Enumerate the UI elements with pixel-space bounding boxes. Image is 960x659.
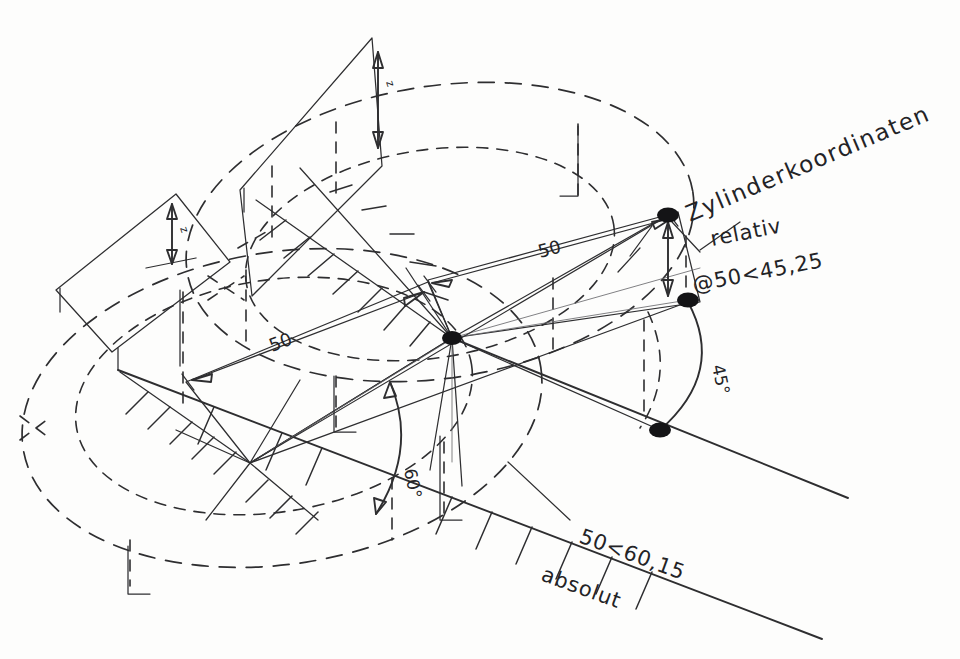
lower-dimension-line — [192, 292, 424, 380]
angle-60-label: 60° — [400, 467, 426, 501]
lower-dimension-value: 50 — [266, 328, 295, 356]
lower-hatch-7 — [270, 496, 292, 518]
lower-hatch-3 — [170, 422, 192, 444]
cross-mark-upper-left — [208, 276, 244, 300]
upper-plane-outer-ellipse — [164, 48, 715, 416]
upper-hatch-1 — [410, 322, 430, 346]
radial-axis-line — [452, 338, 848, 498]
absolute-axis-group — [118, 370, 822, 639]
title-label: Zylinderkoordinaten — [682, 100, 934, 226]
upper-dimension-value: 50 — [536, 236, 564, 262]
angle-45-label: 45° — [708, 363, 734, 397]
upper-dim-arrow-left — [432, 280, 452, 287]
angle-60-arrow-top — [384, 382, 396, 398]
ray-origin-to-mid-dot — [452, 300, 688, 338]
absolute-label: absolut — [538, 562, 624, 613]
relative-label: relativ — [708, 214, 783, 251]
angle-45-arc — [660, 302, 702, 430]
ray-origin-to-lower-dot — [452, 338, 660, 430]
drawing-canvas: Zylinderkoordinaten relativ @50<45,25 50… — [0, 0, 960, 659]
upper-hatch-3 — [358, 288, 382, 312]
upper-hatch-2 — [384, 305, 406, 330]
axis-tick-2 — [476, 512, 492, 549]
proj-ray-left — [176, 430, 250, 463]
plane-connectors — [130, 122, 686, 586]
angle-60-group — [374, 382, 401, 514]
ray-origin-hair-right — [452, 268, 700, 338]
left-vertical-plane — [56, 194, 230, 370]
projection-ray-bundle — [176, 218, 688, 520]
cross-mark-left — [20, 416, 52, 440]
relative-endpoint-upper-dot — [657, 208, 679, 223]
upper-hatch-7 — [260, 220, 286, 240]
upper-plane-ellipses — [164, 48, 715, 416]
lower-hatch-8 — [296, 512, 318, 534]
absolute-endpoint-lower-dot — [649, 423, 671, 438]
angle-45-group — [640, 302, 702, 430]
ray-origin-up-left — [406, 268, 452, 338]
angle-60-arc — [376, 382, 401, 514]
height-leader-b — [618, 248, 640, 272]
lower-hatch-2 — [192, 437, 214, 459]
absolute-axis-line — [118, 370, 822, 639]
lower-hatch-6 — [246, 480, 268, 502]
angle-45-inner-dash — [640, 312, 660, 428]
proj-ray-down-left — [206, 463, 250, 520]
relative-height-dimension — [618, 222, 700, 296]
upper-hatch-5 — [308, 254, 334, 276]
left-plane-outline — [56, 194, 230, 352]
absolute-label-leader — [508, 462, 570, 520]
upper-left-vertical-plane — [240, 38, 383, 296]
coordinate-origin-dot — [442, 331, 462, 345]
upper-parallelogram-outline — [428, 212, 700, 338]
ray-origin-down-2 — [452, 338, 462, 486]
upper-hatch-12 — [330, 185, 352, 192]
ellipse-step-notches — [128, 126, 578, 594]
upper-left-plane-outline — [240, 38, 382, 296]
upper-dimension-parallelogram — [424, 210, 700, 338]
lower-hatch-5 — [126, 392, 148, 414]
upper-hatch-4 — [333, 271, 358, 294]
upper-hatch-11 — [362, 206, 386, 210]
lower-sector-hatching — [120, 372, 318, 534]
relative-value-label: @50<45,25 — [690, 248, 825, 297]
upper-hatch-ticks — [260, 185, 448, 346]
upper-hatch-6 — [284, 237, 310, 258]
relative-endpoint-mid-dot — [677, 293, 699, 308]
axis-tick-7 — [306, 448, 322, 485]
axis-tick-3 — [516, 527, 532, 564]
axis-tick-6 — [636, 572, 652, 609]
height-mark-upper-label: z — [383, 79, 397, 89]
cylindrical-coordinates-sketch: Zylinderkoordinaten relativ @50<45,25 50… — [0, 0, 960, 659]
lower-sector-boundary — [120, 372, 250, 463]
proj-ray-to-mid — [250, 302, 688, 463]
upper-sector-arc-ray — [300, 168, 452, 338]
absolute-value-label: 50<60,15 — [576, 524, 688, 584]
notch-upper-right — [560, 126, 578, 196]
coordinate-points — [442, 208, 699, 438]
ray-origin-to-upper-dot — [452, 215, 668, 338]
lower-hatch-4 — [148, 407, 170, 429]
lower-hatch-ticks — [126, 392, 318, 534]
